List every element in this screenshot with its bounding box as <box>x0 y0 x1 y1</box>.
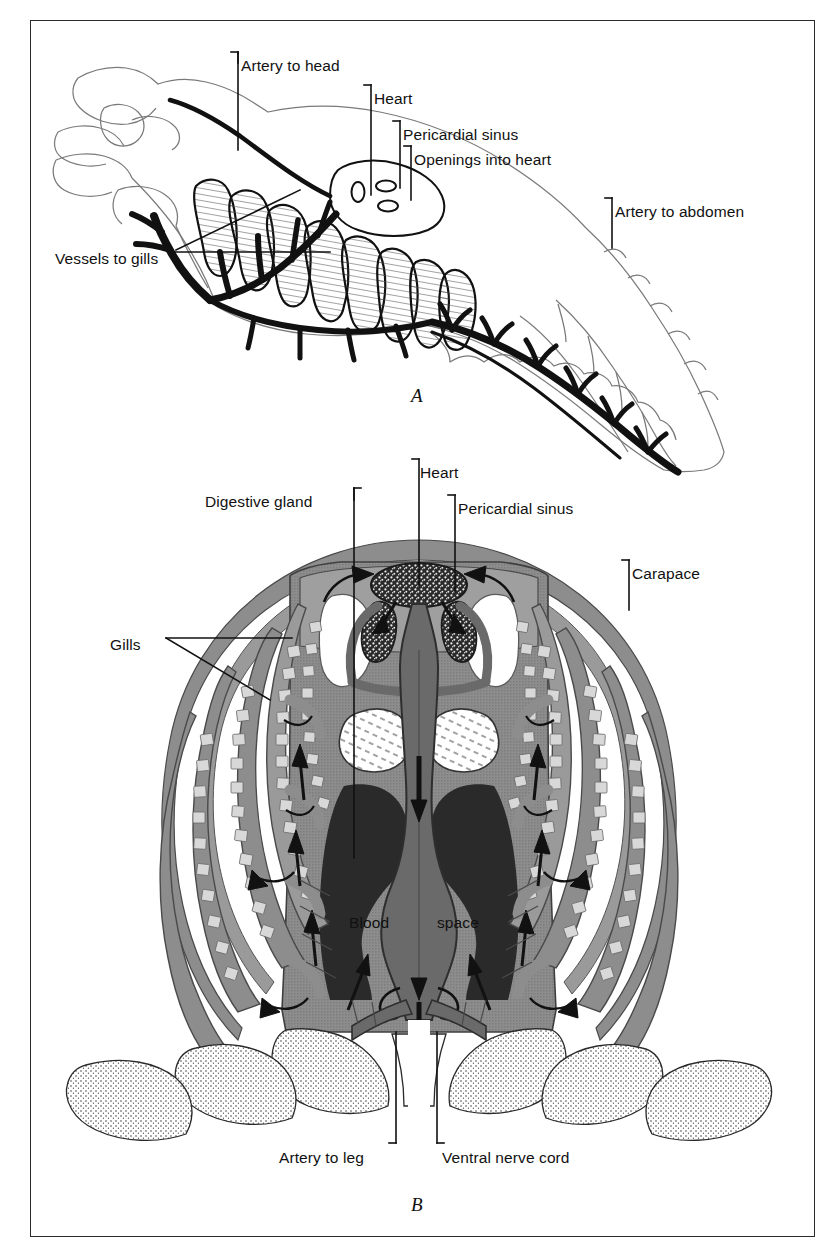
label-carapace: Carapace <box>632 566 700 582</box>
label-gills: Gills <box>110 637 141 653</box>
label-heart-b: Heart <box>420 465 458 481</box>
label-openings-into-heart: Openings into heart <box>414 152 551 168</box>
leg-bases <box>66 1020 771 1140</box>
panel-letter-a: A <box>411 385 423 407</box>
panel-letter-b: B <box>411 1194 423 1216</box>
label-blood-space-word1: Blood <box>349 915 389 931</box>
label-digestive-gland: Digestive gland <box>205 494 312 510</box>
label-pericardial-sinus-a: Pericardial sinus <box>403 127 518 143</box>
label-pericardial-sinus-b: Pericardial sinus <box>458 501 573 517</box>
figure-root: Artery to head Heart Pericardial sinus O… <box>0 0 839 1250</box>
label-blood-space-word2: space <box>437 915 479 931</box>
label-artery-to-leg: Artery to leg <box>279 1150 364 1166</box>
label-ventral-nerve-cord: Ventral nerve cord <box>442 1150 570 1166</box>
label-artery-to-head: Artery to head <box>241 58 340 74</box>
label-artery-to-abdomen: Artery to abdomen <box>615 204 744 220</box>
label-heart-a: Heart <box>374 91 412 107</box>
label-vessels-to-gills: Vessels to gills <box>55 251 158 267</box>
panel-b-drawing <box>0 0 839 1250</box>
